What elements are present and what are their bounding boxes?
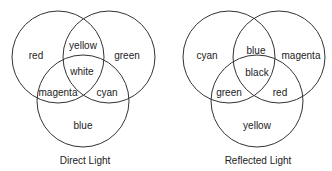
label-white: white <box>69 66 94 77</box>
label-green: green <box>114 50 140 61</box>
label-cyan: cyan <box>96 87 117 98</box>
label-cyan: cyan <box>196 50 217 61</box>
caption-reflected-light: Reflected Light <box>225 155 292 166</box>
label-blue: blue <box>74 120 93 131</box>
label-magenta: magenta <box>282 50 321 61</box>
label-yellow: yellow <box>243 120 272 131</box>
label-black: black <box>245 67 269 78</box>
label-magenta: magenta <box>39 87 78 98</box>
label-red: red <box>273 87 287 98</box>
venn-diagrams: red green yellow white magenta cyan blue… <box>0 0 332 171</box>
label-red: red <box>29 50 43 61</box>
label-blue: blue <box>247 45 266 56</box>
label-yellow: yellow <box>69 40 98 51</box>
caption-direct-light: Direct Light <box>60 155 111 166</box>
label-green: green <box>216 87 242 98</box>
